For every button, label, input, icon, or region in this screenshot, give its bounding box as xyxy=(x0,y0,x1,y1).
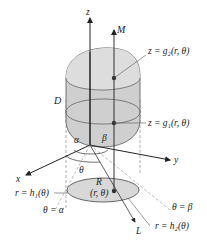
point-r-theta xyxy=(112,189,116,193)
label-inner-curve: r = h₁(θ) xyxy=(15,188,49,199)
label-point: (r, θ) xyxy=(90,188,108,199)
label-beta: β xyxy=(101,133,107,143)
cylindrical-region-diagram: z x y L M z = g₂(r, θ) z = g₁(r, θ) D α … xyxy=(0,0,207,248)
x-axis-label: x xyxy=(15,174,21,184)
label-upper-surface: z = g₂(r, θ) xyxy=(147,46,189,57)
label-d: D xyxy=(53,95,62,106)
label-lower-surface: z = g₁(r, θ) xyxy=(147,118,189,129)
y-axis-label: y xyxy=(173,155,179,165)
label-theta: θ xyxy=(79,165,84,175)
label-r: R xyxy=(95,177,102,187)
label-outer-curve: r = h₂(θ) xyxy=(155,221,189,232)
z-axis-label: z xyxy=(85,7,90,17)
label-l: L xyxy=(135,226,141,236)
label-ray-beta: θ = β xyxy=(172,202,193,212)
y-axis xyxy=(90,145,170,160)
label-ray-alpha: θ = α xyxy=(43,205,65,215)
label-m: M xyxy=(116,24,126,35)
